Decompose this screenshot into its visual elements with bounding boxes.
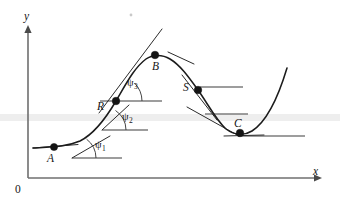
point-label-c: C: [234, 118, 242, 130]
y-axis-label: y: [24, 11, 29, 23]
point-label-b: B: [152, 61, 159, 73]
point-label-r: R: [97, 101, 104, 113]
tangent-lines-group: [33, 29, 264, 158]
psi2-symbol: ψ: [122, 111, 129, 122]
psi3-subscript: 3: [134, 82, 138, 91]
main-curve: [33, 55, 287, 148]
point-marker-c: [236, 129, 244, 137]
x-axis-label: x: [313, 166, 318, 178]
diagram-svg: [0, 0, 340, 209]
psi2-subscript: 2: [129, 116, 133, 125]
y-axis-arrowhead: [24, 25, 31, 33]
axes-group: [24, 25, 322, 182]
angle-label-psi2: ψ2: [122, 112, 132, 123]
point-marker-r: [112, 97, 120, 105]
figure-canvas: y x 0 A R B S C ψ1 ψ2 ψ3: [0, 0, 340, 209]
psi3-symbol: ψ: [127, 77, 134, 88]
point-marker-b: [151, 51, 159, 59]
point-label-s: S: [183, 82, 189, 94]
origin-label: 0: [15, 184, 21, 196]
tangent-segment-b: [168, 52, 194, 64]
scan-speck: [130, 14, 133, 17]
point-marker-a: [50, 143, 57, 150]
point-marker-s: [194, 86, 202, 94]
angle-label-psi1: ψ1: [95, 140, 105, 151]
psi1-symbol: ψ: [95, 139, 102, 150]
scan-artifact-band: [0, 114, 340, 121]
reference-lines-group: [72, 87, 305, 158]
angle-label-psi3: ψ3: [127, 78, 137, 89]
psi1-subscript: 1: [102, 144, 106, 153]
point-label-a: A: [47, 153, 54, 165]
